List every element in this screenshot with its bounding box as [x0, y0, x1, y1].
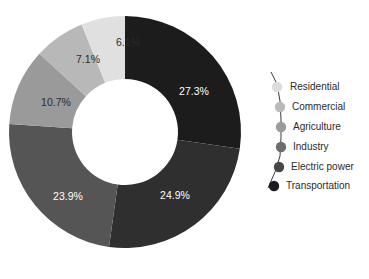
legend-swatch-commercial — [275, 102, 285, 112]
legend-swatch-industry — [276, 142, 286, 152]
legend: ResidentialCommercialAgricultureIndustry… — [269, 81, 355, 192]
slice-label-residential: 6.1% — [116, 36, 140, 48]
legend-label-agriculture: Agriculture — [293, 121, 341, 132]
legend-swatch-agriculture — [276, 122, 286, 132]
legend-item-commercial[interactable]: Commercial — [275, 101, 346, 113]
legend-swatch-electric-power — [274, 162, 284, 172]
slice-label-agriculture: 10.7% — [41, 96, 71, 108]
slice-label-transportation: 27.3% — [179, 85, 209, 97]
legend-label-residential: Residential — [290, 81, 339, 92]
legend-swatch-residential — [272, 82, 282, 92]
legend-item-residential[interactable]: Residential — [272, 81, 340, 93]
chart-canvas: 27.3%24.9%23.9%10.7%7.1%6.1% Residential… — [0, 0, 369, 279]
slice-label-commercial: 7.1% — [76, 53, 100, 65]
legend-label-transportation: Transportation — [286, 180, 350, 191]
legend-item-agriculture[interactable]: Agriculture — [276, 121, 341, 133]
legend-label-electric-power: Electric power — [291, 161, 354, 172]
legend-label-commercial: Commercial — [292, 101, 345, 112]
slice-label-electric-power: 24.9% — [160, 189, 190, 201]
donut-chart-figure: 27.3%24.9%23.9%10.7%7.1%6.1% Residential… — [0, 0, 369, 279]
donut-slices-group — [9, 16, 241, 248]
legend-item-electric-power[interactable]: Electric power — [274, 161, 355, 173]
legend-swatch-transportation — [269, 181, 279, 191]
slice-label-industry: 23.9% — [53, 190, 83, 202]
donut-slice-transportation[interactable] — [125, 16, 241, 149]
legend-item-transportation[interactable]: Transportation — [269, 180, 350, 192]
legend-item-industry[interactable]: Industry — [276, 141, 329, 153]
legend-label-industry: Industry — [293, 141, 329, 152]
donut-slice-industry[interactable] — [9, 124, 118, 247]
